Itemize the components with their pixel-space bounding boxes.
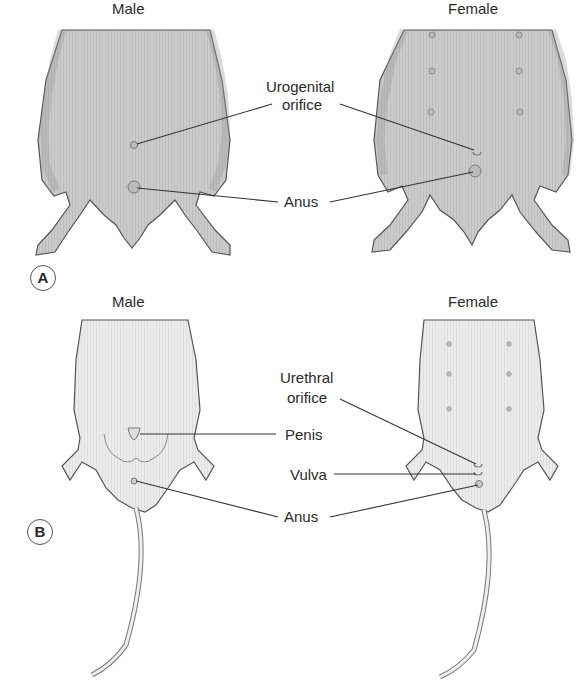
label-urethral-line1: Urethral — [280, 369, 333, 386]
label-urogenital-line2: orifice — [282, 96, 322, 113]
title-female-b: Female — [448, 293, 498, 310]
male-rat-ventral-a — [36, 30, 230, 255]
panel-badge-b: B — [27, 519, 53, 545]
title-male-a: Male — [112, 0, 145, 17]
title-male-b: Male — [112, 293, 145, 310]
title-female-a: Female — [448, 0, 498, 17]
label-urogenital-line1: Urogenital — [266, 78, 334, 95]
female-rat-ventral-b — [406, 320, 558, 677]
panel-badge-a: A — [30, 265, 56, 291]
male-rat-ventral-b — [62, 320, 214, 675]
label-vulva: Vulva — [290, 466, 327, 483]
label-anus-a: Anus — [284, 193, 318, 210]
label-penis: Penis — [285, 426, 323, 443]
label-anus-b: Anus — [284, 508, 318, 525]
female-rat-ventral-a — [372, 30, 572, 252]
label-urethral-line2: orifice — [287, 389, 327, 406]
